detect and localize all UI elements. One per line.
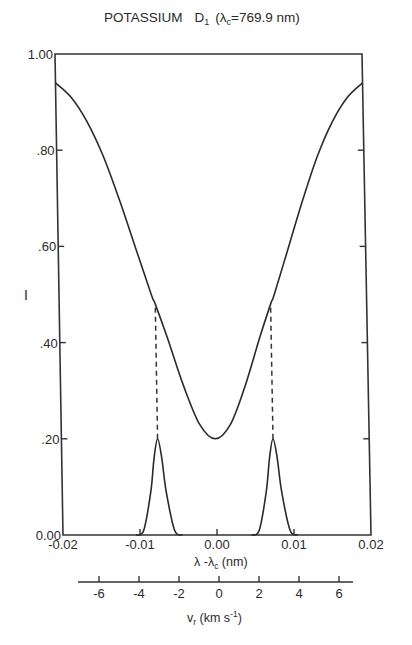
- x-tick-label: 0.01: [281, 537, 306, 552]
- velocity-tick-label: 4: [295, 586, 302, 601]
- y-tick-label: .40: [40, 336, 58, 351]
- series-line: [136, 439, 182, 535]
- velocity-tick-label: 2: [255, 586, 262, 601]
- velocity-tick-label: -6: [93, 586, 105, 601]
- x-tick-label: 0.00: [204, 537, 229, 552]
- velocity-tick-label: 0: [215, 586, 222, 601]
- line-profile-chart: POTASSIUMD1(λc=769.9 nm) 0.00.20.40.60.8…: [0, 0, 412, 645]
- velocity-tick-label: 6: [335, 586, 342, 601]
- x-axis: -0.02-0.010.000.010.02: [48, 529, 383, 552]
- series-line: [252, 439, 298, 535]
- chart-title: POTASSIUMD1(λc=769.9 nm): [104, 10, 300, 27]
- velocity-axis-label: vr (km s-1): [187, 609, 242, 627]
- data-series: [55, 83, 362, 535]
- velocity-axis: -6-4-20246: [78, 576, 353, 601]
- x-tick-label: -0.01: [125, 537, 155, 552]
- y-tick-label: .80: [37, 143, 55, 158]
- dashed-marker-line: [271, 304, 273, 439]
- x-axis-label: λ -λc (nm): [194, 555, 248, 571]
- y-tick-label: .20: [41, 432, 59, 447]
- velocity-tick-label: -2: [173, 586, 185, 601]
- y-tick-label: 1.00: [28, 47, 53, 62]
- velocity-tick-label: -4: [133, 586, 145, 601]
- x-tick-label: -0.02: [48, 537, 78, 552]
- series-line: [55, 83, 362, 439]
- y-axis-label: I: [24, 287, 28, 303]
- dashed-marker-line: [155, 304, 157, 439]
- x-tick-label: 0.02: [358, 537, 383, 552]
- y-tick-label: .60: [38, 239, 56, 254]
- plot-frame: [55, 54, 371, 535]
- y-axis: 0.00.20.40.60.801.00: [28, 47, 370, 543]
